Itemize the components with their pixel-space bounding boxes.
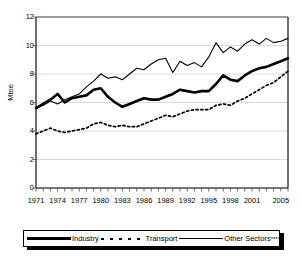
x-axis-tick-label: 2005 [268, 196, 294, 205]
legend-swatch-dotted-icon [101, 234, 145, 243]
legend-shadow [27, 247, 284, 250]
legend-footnote-marker: **** [271, 236, 280, 242]
chart-container: Mtoe 024681012 1971197419771980198319861… [0, 0, 302, 270]
legend-swatch-thick-solid-icon [27, 237, 71, 240]
x-axis-tick-marks [33, 17, 289, 192]
legend-item-transport[interactable]: Transport [101, 234, 178, 243]
legend: IndustryTransportOther Sectors**** [23, 230, 280, 247]
legend-item-industry[interactable]: Industry [27, 234, 99, 243]
legend-label: Transport [146, 234, 178, 243]
legend-shadow-side [280, 233, 284, 250]
plot-area [0, 0, 302, 200]
legend-label: Industry [72, 234, 99, 243]
x-axis-tick-label: 2001 [239, 196, 265, 205]
legend-label: Other Sectors [224, 234, 270, 243]
legend-swatch-thin-solid-icon [179, 238, 223, 239]
legend-item-other-sectors[interactable]: Other Sectors**** [179, 234, 280, 243]
gridlines [36, 17, 288, 160]
series-line-industry [36, 58, 288, 108]
series-lines [36, 38, 288, 133]
